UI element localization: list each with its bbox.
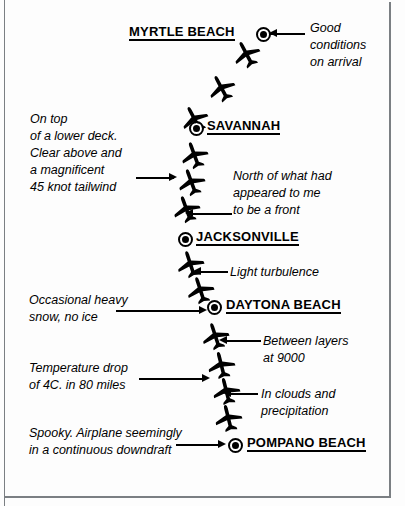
frame-left-border [4,0,5,506]
city-marker-pompano-beach [230,440,241,451]
city-marker-daytona-beach [209,302,220,313]
city-label-myrtle-beach: MYRTLE BEACH [129,24,235,41]
arrowhead-icon [218,440,226,448]
annotation-line: to be a front [233,202,332,219]
annotation-line: in a continuous downdraft [29,442,182,459]
airplane-icon [202,67,243,108]
annotation-line: of 4C. in 80 miles [29,377,128,394]
arrowhead-icon [199,306,207,314]
arrowhead-icon [193,267,201,275]
annotation-line: Clear above and [30,145,122,162]
city-label-jacksonville: JACKSONVILLE [196,229,299,246]
annotation-line: of a lower deck. [30,128,122,145]
annotation-line: appeared to me [233,185,332,202]
annotation-in-clouds: In clouds andprecipitation [261,386,335,420]
arrowhead-icon [185,209,193,217]
leader-line [228,393,258,395]
airplane-icon [168,189,206,227]
annotation-line: On top [30,111,122,128]
annotation-spooky-downdraft: Spooky. Airplane seeminglyin a continuou… [29,425,182,459]
frame-bottom-border [5,496,391,498]
frame-right-border [389,2,391,498]
city-label-savannah: SAVANNAH [207,118,280,135]
arrowhead-icon [169,173,177,181]
annotation-occasional-heavy-snow: Occasional heavysnow, no ice [29,292,128,326]
arrowhead-icon [202,374,210,382]
annotation-line: Between layers [263,333,348,350]
annotation-line: precipitation [261,403,335,420]
leader-line [190,213,232,215]
arrowhead-icon [219,336,227,344]
annotation-line: Spooky. Airplane seemingly [29,425,182,442]
annotation-line: Temperature drop [29,360,128,377]
city-label-pompano-beach: POMPANO BEACH [247,435,366,452]
annotation-light-turbulence: Light turbulence [230,264,319,281]
annotation-line: 45 knot tailwind [30,179,122,196]
annotation-north-of-front: North of what hadappeared to meto be a f… [233,168,332,219]
arrowhead-icon [223,389,231,397]
leader-line [139,378,204,380]
city-marker-savannah [191,123,202,134]
annotation-line: In clouds and [261,386,335,403]
city-marker-jacksonville [180,234,191,245]
annotation-line: Good [310,20,366,37]
leader-line [198,271,228,273]
annotation-temperature-drop: Temperature dropof 4C. in 80 miles [29,360,128,394]
city-marker-myrtle-beach [258,29,269,40]
leader-line [116,310,201,312]
annotation-line: snow, no ice [29,309,128,326]
leader-line [224,340,261,342]
annotation-line: on arrival [310,54,366,71]
annotation-line: at 9000 [263,350,348,367]
arrowhead-icon [269,29,277,37]
annotation-line: Light turbulence [230,264,319,281]
annotation-on-top-lower-deck: On topof a lower deck.Clear above anda m… [30,111,122,196]
annotation-good-conditions: Goodconditionson arrival [310,20,366,71]
flight-route-figure: MYRTLE BEACHSAVANNAHJACKSONVILLEDAYTONA … [0,0,405,506]
annotation-line: a magnificent [30,162,122,179]
annotation-line: North of what had [233,168,332,185]
airplane-icon [211,399,247,435]
annotation-line: conditions [310,37,366,54]
leader-line [176,444,220,446]
annotation-between-layers: Between layersat 9000 [263,333,348,367]
annotation-line: Occasional heavy [29,292,128,309]
city-label-daytona-beach: DAYTONA BEACH [226,297,341,314]
